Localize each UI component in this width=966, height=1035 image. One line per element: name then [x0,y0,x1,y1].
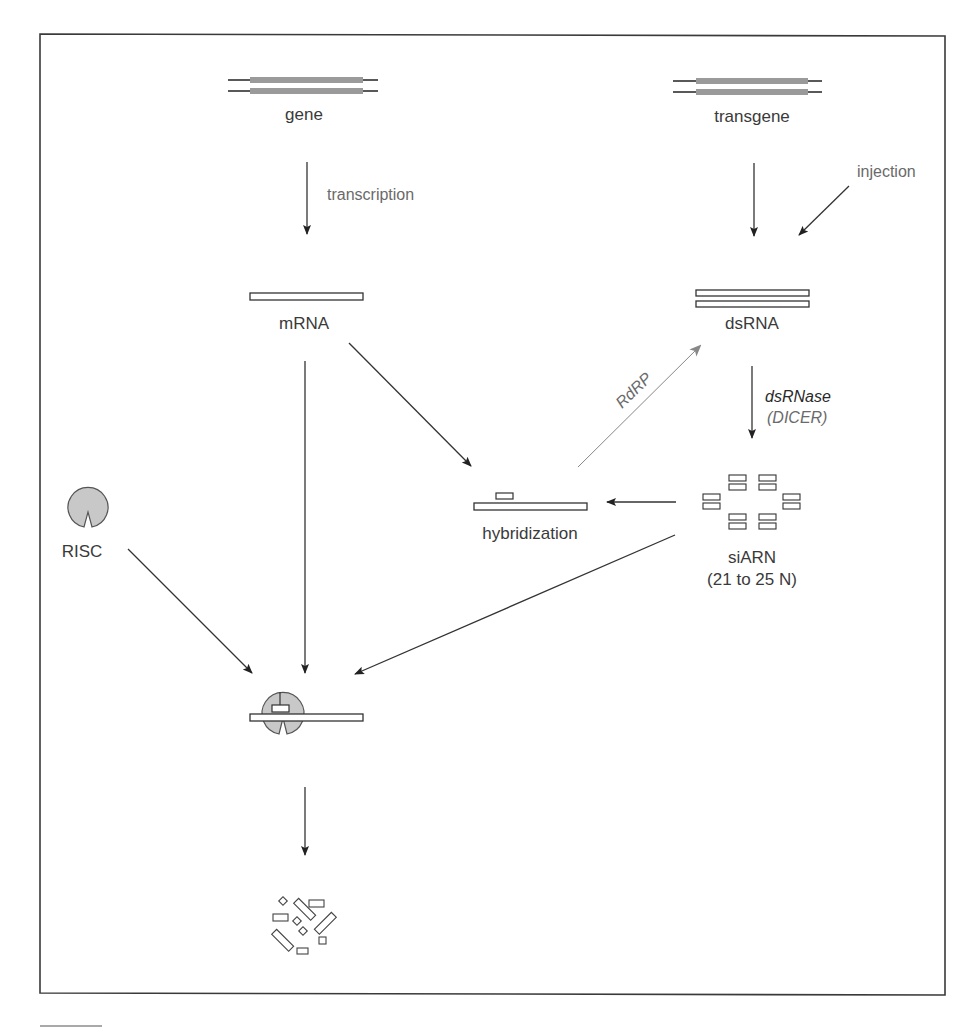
complex-node [250,692,363,734]
degraded-fragments-icon [272,897,337,954]
mrna-node: mRNA [250,293,363,333]
risc-mrna-complex-icon [250,692,363,734]
transgene-dna-icon [673,78,822,95]
risc-to-complex-arrow [128,549,252,673]
gene-label: gene [285,105,323,124]
sirna-label: siARN [728,548,776,567]
gene-node: gene [228,77,378,124]
sirna-duplexes-icon [703,475,800,529]
injection-label: injection [857,163,916,180]
dsrna-strands-icon [696,290,809,307]
risc-label: RISC [62,542,103,561]
dsrna-label: dsRNA [725,314,780,333]
sirna-sublabel: (21 to 25 N) [707,570,797,589]
hybrid-duplex-icon [474,493,587,510]
rdrp-label: RdRP [612,369,655,411]
rdrp-arrow: RdRP [578,346,700,467]
dicer-arrow: dsRNase (DICER) [752,366,831,438]
transcription-arrow: transcription [307,162,414,234]
injection-arrow: injection [799,163,916,235]
mrna-label: mRNA [279,314,330,333]
dicer-sublabel: (DICER) [767,409,827,426]
mrna-strand-icon [250,293,363,300]
hybridization-label: hybridization [482,524,577,543]
gene-dna-icon [228,77,378,94]
risc-node: RISC [62,487,108,561]
sirna-to-complex-arrow [355,535,675,674]
figure-frame [40,34,945,995]
transgene-node: transgene [673,78,822,126]
rnai-pathway-diagram: gene transgene transcription injection m… [0,0,966,1035]
risc-pacman-icon [68,487,108,527]
hybridization-node: hybridization [474,493,587,543]
sirna-node: siARN (21 to 25 N) [703,475,800,589]
mrna-to-hybridization-arrow [349,343,471,466]
transgene-label: transgene [714,107,790,126]
dicer-label: dsRNase [765,388,831,405]
dsrna-node: dsRNA [696,290,809,333]
transcription-label: transcription [327,186,414,203]
